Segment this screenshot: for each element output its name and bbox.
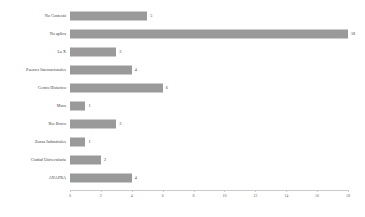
- bar-value-label: 1: [88, 104, 90, 108]
- x-tick-label: 18: [346, 194, 350, 198]
- bar-value-label: 3: [119, 122, 121, 126]
- bar-row: Ciudad Universitaria2: [70, 151, 348, 169]
- category-label: No aplica: [50, 32, 66, 36]
- bar: [70, 174, 132, 183]
- category-label: La X: [58, 50, 67, 54]
- bar-value-label: 4: [135, 176, 137, 180]
- bar-value-label: 2: [104, 158, 106, 162]
- category-label: Zonas Industriales: [35, 140, 66, 144]
- category-label: No Contestó: [45, 14, 66, 18]
- x-tick-mark: [163, 190, 164, 192]
- bar-value-label: 1: [88, 140, 90, 144]
- bar-value-label: 4: [135, 68, 137, 72]
- x-tick-label: 0: [69, 194, 71, 198]
- bar-row: La X3: [70, 43, 348, 61]
- x-tick-mark: [224, 190, 225, 192]
- bar: [70, 84, 163, 93]
- bar: [70, 138, 85, 147]
- x-tick-label: 6: [162, 194, 164, 198]
- x-tick-label: 10: [222, 194, 226, 198]
- bar-row: Puentes Internacionales4: [70, 61, 348, 79]
- x-axis-line: [70, 190, 348, 191]
- x-tick-mark: [255, 190, 256, 192]
- bar-row: No Contestó5: [70, 7, 348, 25]
- bar: [70, 48, 116, 57]
- x-tick-mark: [132, 190, 133, 192]
- x-tick-label: 14: [284, 194, 288, 198]
- bar-value-label: 5: [150, 14, 152, 18]
- bar-value-label: 6: [166, 86, 168, 90]
- horizontal-bar-chart: No Contestó5No aplica18La X3Puentes Inte…: [0, 0, 365, 217]
- x-tick-mark: [286, 190, 287, 192]
- bar: [70, 102, 85, 111]
- category-label: ANAPRA: [49, 176, 66, 180]
- x-tick-mark: [348, 190, 349, 192]
- category-label: Centro Historico: [38, 86, 66, 90]
- x-tick-mark: [194, 190, 195, 192]
- category-label: Puentes Internacionales: [26, 68, 66, 72]
- bar: [70, 66, 132, 75]
- bar: [70, 30, 348, 39]
- plot-area: No Contestó5No aplica18La X3Puentes Inte…: [70, 8, 348, 190]
- category-label: Ciudad Universitaria: [31, 158, 66, 162]
- x-tick-label: 4: [131, 194, 133, 198]
- bar-value-label: 18: [351, 32, 355, 36]
- x-tick-mark: [70, 190, 71, 192]
- bar-row: Zonas Industriales1: [70, 133, 348, 151]
- bar-row: Centro Historico6: [70, 79, 348, 97]
- bar-row: No aplica18: [70, 25, 348, 43]
- x-tick-label: 16: [315, 194, 319, 198]
- x-tick-mark: [101, 190, 102, 192]
- bar: [70, 156, 101, 165]
- category-label: Muro: [57, 104, 66, 108]
- bar-row: ANAPRA4: [70, 169, 348, 187]
- bar: [70, 120, 116, 129]
- bar-value-label: 3: [119, 50, 121, 54]
- x-tick-label: 2: [100, 194, 102, 198]
- x-tick-label: 12: [253, 194, 257, 198]
- bar: [70, 12, 147, 21]
- bar-row: Muro1: [70, 97, 348, 115]
- bar-row: Rio Bravo3: [70, 115, 348, 133]
- x-tick-label: 8: [193, 194, 195, 198]
- x-tick-mark: [317, 190, 318, 192]
- category-label: Rio Bravo: [49, 122, 66, 126]
